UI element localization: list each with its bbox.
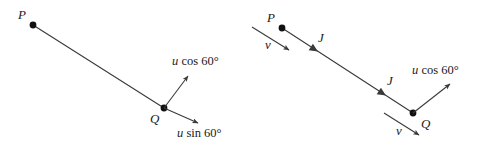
left-u-cos-expression: cos 60° (178, 54, 218, 68)
right-velocity-v-at-P-label: v (265, 38, 271, 51)
right-point-P-dot (279, 25, 286, 32)
right-u-cos-expression: cos 60° (418, 63, 458, 77)
right-velocity-v-at-Q-label: v (396, 124, 402, 137)
right-impulse-J-upper-arrowhead (309, 44, 318, 52)
physics-vector-figure: P Q u cos 60° u sin 60° P Q J J v v u co… (0, 0, 485, 148)
left-vector-u-sin-60-label: u sin 60° (177, 127, 222, 140)
left-rod-line (33, 25, 164, 108)
left-vector-u-cos-60-label: u cos 60° (172, 55, 219, 68)
right-impulse-J-lower-arrowhead (377, 88, 386, 96)
left-panel-graphics (30, 22, 198, 123)
right-vector-u-cos-60-arrow (413, 84, 450, 113)
right-vector-u-cos-60-label: u cos 60° (412, 64, 459, 77)
left-vector-u-cos-60-arrow (164, 76, 188, 108)
left-point-Q-label: Q (150, 112, 159, 125)
right-point-P-label: P (267, 11, 275, 24)
left-point-P-label: P (18, 8, 26, 21)
right-point-Q-label: Q (421, 117, 430, 130)
right-rod-line (282, 28, 413, 113)
left-vector-u-sin-60-arrow (164, 108, 198, 123)
left-point-P-dot (30, 22, 37, 29)
right-impulse-J-upper-label: J (318, 31, 324, 44)
left-u-sin-expression: sin 60° (183, 126, 221, 140)
right-impulse-J-lower-label: J (387, 74, 393, 87)
